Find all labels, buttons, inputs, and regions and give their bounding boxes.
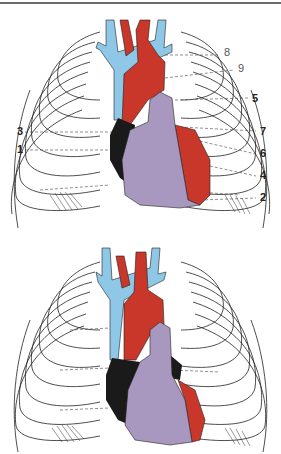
thorax-illustration [0,0,281,230]
label-4: 4 [260,170,266,181]
heart-diagram-labeled: 8 9 5 3 7 1 6 4 2 [0,0,281,230]
label-8: 8 [224,47,230,58]
heart-diagram-unlabeled [0,230,281,454]
label-1: 1 [17,144,23,155]
label-5: 5 [252,93,258,104]
label-6: 6 [260,148,266,159]
label-3: 3 [17,126,23,137]
label-2: 2 [260,192,266,203]
label-7: 7 [260,126,266,137]
thorax-illustration [0,230,281,454]
label-9: 9 [238,63,244,74]
